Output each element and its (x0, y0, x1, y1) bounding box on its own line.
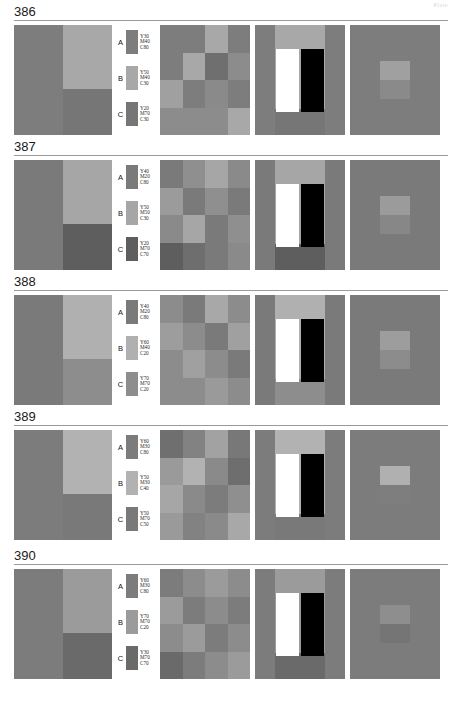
bars-panel-bottom (275, 244, 325, 270)
plate-number: 388 (0, 274, 456, 290)
checkerboard-panel (160, 569, 250, 679)
legend-letter: A (116, 38, 125, 47)
checkerboard-panel (160, 160, 250, 270)
checkerboard-panel (160, 430, 250, 540)
checker-cell (160, 378, 183, 406)
checker-cell (205, 458, 228, 486)
plate-divider (14, 290, 448, 291)
center-square-bottom (380, 624, 411, 643)
checker-cell (228, 215, 251, 243)
legend-color-swatch (126, 102, 138, 126)
legend-row: BY50M50C30 (116, 198, 162, 228)
checker-cell (183, 513, 206, 541)
split-field-left (14, 25, 63, 135)
legend-cmy-values: Y50M40C30 (140, 70, 150, 87)
legend-letter: A (116, 582, 125, 591)
center-square-top (380, 61, 411, 80)
legend-color-swatch (126, 435, 138, 459)
center-square-bottom (380, 485, 411, 504)
swatch-legend: AY30M40C80BY50M40C30CY20M70C30 (116, 25, 160, 135)
split-field-right (63, 160, 112, 270)
legend-cmy-values: Y50M70C50 (140, 511, 150, 528)
checker-cell (183, 80, 206, 108)
checker-cell (160, 323, 183, 351)
legend-color-swatch (126, 471, 138, 495)
checker-cell (183, 569, 206, 597)
legend-cmy-values: Y50M30C40 (140, 475, 150, 492)
checker-cell (160, 513, 183, 541)
plate-divider (14, 564, 448, 565)
checker-cell (183, 295, 206, 323)
center-square-top (380, 331, 411, 350)
center-square-panel (350, 430, 440, 540)
center-square (380, 331, 411, 368)
checker-cell (183, 430, 206, 458)
legend-cmy-values: Y30M40C80 (140, 34, 150, 51)
legend-cmy-values: Y20M70C70 (140, 241, 150, 258)
split-field-right-bottom (63, 359, 112, 405)
plate-divider (14, 425, 448, 426)
bars-panel (255, 569, 345, 679)
legend-row: AY60M30C80 (116, 571, 162, 601)
split-field-right-bottom (63, 89, 112, 135)
checker-cell (205, 160, 228, 188)
legend-letter: A (116, 308, 125, 317)
center-square-bottom (380, 215, 411, 234)
legend-letter: B (116, 618, 125, 627)
checker-cell (160, 569, 183, 597)
checker-cell (228, 430, 251, 458)
checker-cell (160, 108, 183, 136)
legend-value-c: C20 (140, 387, 150, 393)
checker-cell (228, 485, 251, 513)
bars-panel-bottom (275, 379, 325, 405)
checker-cell (228, 513, 251, 541)
legend-row: BY70M70C20 (116, 607, 162, 637)
legend-value-c: C40 (140, 486, 150, 492)
legend-value-c: C20 (140, 625, 150, 631)
checker-cell (228, 350, 251, 378)
checker-cell (160, 624, 183, 652)
bars-panel (255, 160, 345, 270)
plate-divider (14, 20, 448, 21)
swatch-legend: AY40M20C80BY50M50C30CY20M70C70 (116, 160, 160, 270)
checker-cell (205, 188, 228, 216)
legend-row: AY30M40C80 (116, 27, 162, 57)
checker-cell (205, 215, 228, 243)
checker-cell (183, 485, 206, 513)
center-square-bottom (380, 80, 411, 99)
checker-cell (183, 624, 206, 652)
checker-cell (183, 188, 206, 216)
checker-cell (183, 108, 206, 136)
split-field-left (14, 160, 63, 270)
center-square (380, 466, 411, 503)
center-square (380, 605, 411, 642)
bars-panel-bottom (275, 653, 325, 679)
legend-row: CY20M70C30 (116, 99, 162, 129)
split-field-right (63, 295, 112, 405)
black-bar (301, 319, 324, 382)
center-square-panel (350, 295, 440, 405)
plate-body: AY30M40C80BY50M40C30CY20M70C30 (0, 25, 456, 137)
black-bar (301, 593, 324, 656)
legend-value-c: C30 (140, 117, 150, 123)
legend-row: AY40M20C80 (116, 162, 162, 192)
checker-cell (160, 215, 183, 243)
checker-cell (160, 485, 183, 513)
split-field-panel (14, 295, 112, 405)
legend-letter: B (116, 74, 125, 83)
checker-cell (183, 323, 206, 351)
legend-value-c: C70 (140, 661, 150, 667)
checker-cell (160, 80, 183, 108)
checker-cell (228, 323, 251, 351)
split-field-left (14, 430, 63, 540)
split-field-panel (14, 569, 112, 679)
checker-cell (228, 53, 251, 81)
checker-cell (205, 430, 228, 458)
checker-cell (228, 295, 251, 323)
checker-cell (228, 597, 251, 625)
legend-letter: A (116, 173, 125, 182)
legend-cmy-values: Y60M30C80 (140, 439, 150, 456)
checkerboard-panel (160, 25, 250, 135)
legend-letter: C (116, 515, 125, 524)
plate-number: 387 (0, 139, 456, 155)
